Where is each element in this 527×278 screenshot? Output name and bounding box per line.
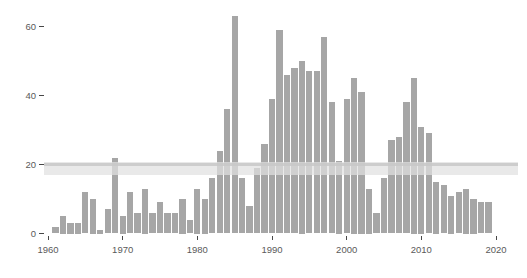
bar-2007 [396, 137, 402, 234]
bar-1980 [194, 189, 200, 234]
y-tick-label-0: 0 [0, 228, 36, 240]
bar-1997 [321, 37, 327, 234]
bar-1965 [82, 192, 88, 233]
y-tick-label-40: 40 [0, 90, 36, 102]
x-tick-label-2020: 2020 [478, 244, 514, 256]
bar-2005 [381, 178, 387, 233]
bar-2004 [373, 213, 379, 234]
x-tick-label-1960: 1960 [30, 244, 66, 256]
bar-2015 [456, 192, 462, 233]
x-tick-mark-2010 [421, 236, 422, 241]
bar-1974 [149, 213, 155, 234]
x-tick-mark-2000 [346, 236, 347, 241]
bar-1971 [127, 192, 133, 233]
bar-1993 [291, 68, 297, 234]
plot-panel [0, 0, 527, 278]
bar-2018 [478, 202, 484, 233]
bar-1981 [202, 199, 208, 234]
bar-1978 [179, 199, 185, 234]
bar-2012 [433, 182, 439, 234]
bar-2019 [485, 202, 491, 233]
bar-1968 [105, 209, 111, 233]
bar-1977 [172, 213, 178, 234]
y-tick-mark-60 [39, 26, 44, 27]
x-tick-label-1970: 1970 [105, 244, 141, 256]
x-tick-label-1980: 1980 [179, 244, 215, 256]
y-tick-mark-40 [39, 95, 44, 96]
bar-1964 [75, 223, 81, 233]
x-tick-label-2010: 2010 [403, 244, 439, 256]
y-tick-mark-0 [39, 233, 44, 234]
bar-1994 [299, 61, 305, 234]
y-tick-mark-20 [39, 164, 44, 165]
bar-1989 [261, 144, 267, 234]
x-tick-label-1990: 1990 [254, 244, 290, 256]
bar-1961 [52, 227, 58, 234]
bar-1982 [209, 178, 215, 233]
bar-1996 [314, 71, 320, 233]
x-tick-mark-1970 [122, 236, 123, 241]
bar-1992 [284, 75, 290, 234]
x-tick-label-2000: 2000 [329, 244, 365, 256]
bar-2017 [470, 199, 476, 234]
x-tick-mark-2020 [496, 236, 497, 241]
bar-1976 [164, 213, 170, 234]
histogram-chart: 0204060 1960197019801990200020102020 [0, 0, 527, 278]
bar-1962 [60, 216, 66, 233]
bar-1991 [276, 30, 282, 234]
bar-2001 [351, 78, 357, 233]
bar-2014 [448, 196, 454, 234]
bar-1972 [134, 213, 140, 234]
bar-2016 [463, 189, 469, 234]
bar-1970 [120, 216, 126, 233]
y-tick-label-60: 60 [0, 21, 36, 33]
bar-1975 [157, 202, 163, 233]
bar-1985 [232, 16, 238, 233]
x-tick-mark-1990 [272, 236, 273, 241]
bar-1987 [246, 206, 252, 234]
bar-2003 [366, 189, 372, 234]
bar-1967 [97, 230, 103, 234]
bar-2011 [426, 133, 432, 233]
bar-2013 [441, 185, 447, 233]
x-tick-mark-1980 [197, 236, 198, 241]
bar-1995 [306, 71, 312, 233]
gridline-20 [44, 163, 518, 166]
bar-2006 [388, 140, 394, 233]
bar-1963 [67, 223, 73, 233]
bar-1979 [187, 220, 193, 234]
x-tick-mark-1960 [48, 236, 49, 241]
bar-1966 [90, 199, 96, 234]
bar-2009 [411, 78, 417, 233]
bar-1986 [239, 178, 245, 233]
bar-1988 [254, 168, 260, 234]
bar-2010 [418, 127, 424, 234]
y-tick-label-20: 20 [0, 159, 36, 171]
bar-1973 [142, 189, 148, 234]
